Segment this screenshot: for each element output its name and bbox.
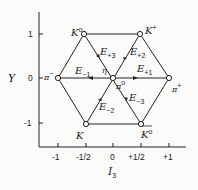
label-pi0: πo [116,79,125,91]
y-tick-label: -1 [24,119,32,128]
label-kminus: K [76,129,83,141]
node-center [110,75,115,80]
label-e-m3: E−3 [129,93,144,105]
y-tick-label: 1 [28,30,33,39]
label-piplus: π+ [172,82,181,94]
label-e-m1: E−1 [75,66,90,78]
x-tick-label: -1 [52,153,60,162]
x-tick-label: -1/2 [76,153,91,162]
x-tick-label: +1 [163,153,173,162]
node-kplus [137,31,142,36]
arrow-e-p1-icon [133,76,138,80]
y-tick-label: 0 [28,74,33,83]
label-e-p2: E+2 [130,47,145,59]
label-k0bar: Ko [141,128,152,140]
label-kplus: K+ [145,24,157,36]
x-tick-label: +1/2 [128,153,145,162]
label-k0: Ko [71,26,82,38]
label-e-p3: E+3 [100,47,115,59]
x-tick-label: 0 [110,153,115,162]
x-axis-label: I3 [108,166,116,179]
label-e-m2: E−2 [99,102,114,114]
node-kminus [83,121,88,126]
label-eta: η [102,67,107,75]
node-piplus [166,75,171,80]
label-e-p1: E+1 [137,64,152,76]
label-piminus: π− [44,70,53,82]
node-piminus [55,75,60,80]
y-axis-label: Y [8,73,15,84]
